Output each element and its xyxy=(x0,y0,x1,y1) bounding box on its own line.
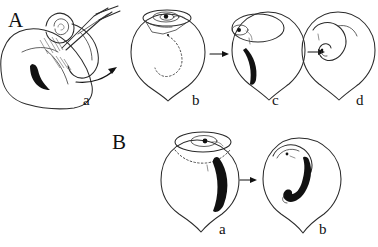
dotted-arc-origin-b xyxy=(167,34,169,36)
spiral-core-ba xyxy=(203,139,208,144)
stage-label-a-a: a xyxy=(83,92,90,108)
stage-label-a-b: b xyxy=(192,92,200,108)
stage-label-a-c: c xyxy=(272,92,279,108)
coil-dot-d xyxy=(321,49,324,52)
panel-letter-b: B xyxy=(112,130,126,154)
spiral-core-c xyxy=(237,28,241,32)
figure-container: A xyxy=(0,0,378,247)
figure-background xyxy=(0,0,378,247)
figure-canvas: A xyxy=(0,0,378,247)
stage-label-b-b: b xyxy=(319,221,327,237)
stage-label-a-d: d xyxy=(356,92,364,108)
spiral-core-b xyxy=(164,14,168,18)
panel-letter-a: A xyxy=(8,8,24,32)
coil-dot-bb xyxy=(286,153,289,156)
stage-label-b-a: a xyxy=(219,221,226,237)
